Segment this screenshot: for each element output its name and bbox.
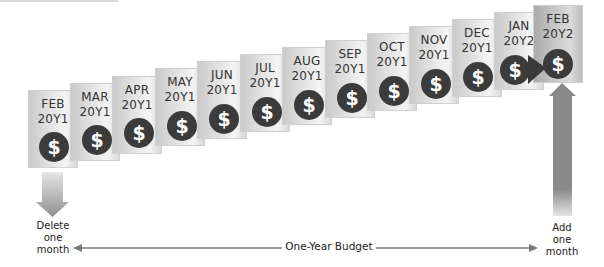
span-arrows-icon (0, 0, 604, 267)
one-year-budget-label: One-Year Budget (285, 240, 373, 252)
